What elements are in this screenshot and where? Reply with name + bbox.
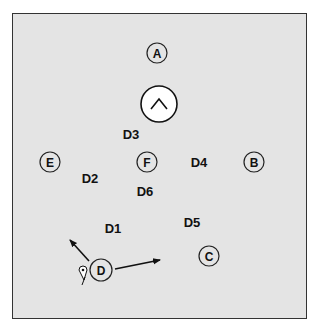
diagram-canvas: AEFBCD D1D2D3D4D5D6 [0,0,315,327]
label-d2: D2 [82,171,99,186]
location-pin-icon [79,266,87,285]
label-d4: D4 [191,155,208,170]
marker-label: F [143,156,150,170]
arrow-right-icon [115,260,160,269]
marker-d: D [90,259,112,281]
arrow-up-left-icon [70,240,89,261]
marker-a: A [147,43,167,63]
marker-label: C [205,250,214,264]
marker-label: A [153,47,162,61]
marker-label: B [250,156,259,170]
label-d5: D5 [184,215,201,230]
marker-b: B [244,152,264,172]
label-d1: D1 [105,221,122,236]
marker-c: C [199,246,219,266]
label-d3: D3 [123,127,140,142]
marker-e: E [40,152,60,172]
marker-label: D [97,264,106,278]
caret-up-icon [141,86,177,122]
marker-f: F [137,152,157,172]
label-d6: D6 [137,184,154,199]
marker-label: E [46,156,54,170]
